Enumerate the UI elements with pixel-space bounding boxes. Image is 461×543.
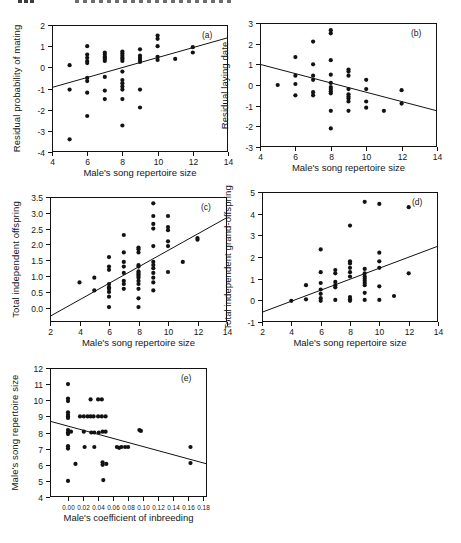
svg-text:-3: -3 — [37, 127, 45, 137]
svg-text:0: 0 — [40, 63, 45, 73]
svg-text:-1: -1 — [247, 318, 255, 328]
svg-text:8: 8 — [348, 327, 353, 337]
svg-text:0.5: 0.5 — [31, 288, 43, 298]
panel-b: Residual laying date 4681012143210-1-2-3… — [0, 0, 461, 543]
svg-text:10: 10 — [362, 152, 372, 162]
svg-text:14: 14 — [433, 152, 443, 162]
svg-text:14: 14 — [224, 157, 234, 167]
svg-text:6: 6 — [38, 461, 43, 471]
svg-text:5: 5 — [38, 477, 43, 487]
svg-text:10: 10 — [375, 327, 385, 337]
svg-text:0.10: 0.10 — [137, 504, 150, 511]
panel-letter-e: (e) — [181, 373, 191, 383]
panel-c: Total independent offspring 24681012143.… — [0, 0, 461, 543]
svg-text:0.08: 0.08 — [122, 504, 135, 511]
svg-text:0: 0 — [248, 81, 253, 91]
svg-text:1: 1 — [250, 275, 255, 285]
svg-text:12: 12 — [189, 157, 199, 167]
svg-text:4: 4 — [78, 327, 83, 337]
x-axis-label-d: Male's song repertoire size — [262, 337, 438, 348]
svg-text:3.5: 3.5 — [31, 193, 43, 203]
svg-text:2.0: 2.0 — [31, 240, 43, 250]
y-axis-label-wrap-b: Residual laying date — [214, 23, 236, 147]
y-axis-label-b: Residual laying date — [220, 41, 231, 129]
svg-text:6: 6 — [85, 157, 90, 167]
scatter-plot-d: 2468101214543210-1 — [262, 192, 438, 322]
svg-text:8: 8 — [120, 157, 125, 167]
svg-text:9: 9 — [38, 412, 43, 422]
svg-text:4: 4 — [50, 157, 55, 167]
panel-a: Residual probability of mating 468101214… — [0, 0, 461, 543]
panel-letter-a: (a) — [202, 30, 212, 40]
scatter-plot-a: 468101214210-1-2-3-4 — [52, 25, 228, 152]
y-axis-label-wrap-d: Total independent grand-offspring — [216, 192, 238, 322]
svg-text:2: 2 — [260, 327, 265, 337]
svg-text:0.0: 0.0 — [31, 304, 43, 314]
svg-text:2: 2 — [248, 40, 253, 50]
svg-text:1: 1 — [248, 60, 253, 70]
svg-text:-2: -2 — [245, 122, 253, 132]
svg-text:4: 4 — [258, 152, 263, 162]
panel-letter-c: (c) — [201, 202, 211, 212]
svg-text:-1: -1 — [245, 102, 253, 112]
svg-text:0: 0 — [250, 296, 255, 306]
panel-letter-b: (b) — [411, 28, 421, 38]
y-axis-label-wrap-e: Male's song repertoire size — [4, 368, 26, 497]
panel-letter-d: (d) — [412, 197, 422, 207]
svg-text:1: 1 — [40, 42, 45, 52]
svg-text:8: 8 — [137, 327, 142, 337]
y-axis-label-wrap-c: Total independent offspring — [4, 197, 26, 322]
svg-text:-3: -3 — [245, 143, 253, 153]
svg-text:3.0: 3.0 — [31, 209, 43, 219]
scatter-plot-e: 0.000.020.040.060.080.100.120.140.160.18… — [50, 368, 207, 497]
svg-text:-1: -1 — [37, 85, 45, 95]
svg-text:0.18: 0.18 — [197, 504, 210, 511]
svg-text:4: 4 — [289, 327, 294, 337]
svg-text:2: 2 — [48, 327, 53, 337]
svg-text:0.12: 0.12 — [152, 504, 165, 511]
cropped-running-head — [75, 0, 233, 3]
x-axis-label-a: Male's song repertoire size — [52, 167, 228, 178]
y-axis-label-a: Residual probability of mating — [12, 25, 23, 153]
svg-text:10: 10 — [34, 396, 44, 406]
svg-text:4: 4 — [38, 493, 43, 503]
svg-text:0.02: 0.02 — [77, 504, 90, 511]
svg-text:2: 2 — [250, 253, 255, 263]
panel-d: Total independent grand-offspring 246810… — [0, 0, 461, 543]
svg-text:0.06: 0.06 — [107, 504, 120, 511]
scatter-plot-b: 4681012143210-1-2-3 — [260, 23, 437, 147]
x-axis-label-e: Male's coefficient of inbreeding — [50, 512, 207, 523]
svg-text:4: 4 — [250, 210, 255, 220]
svg-text:3: 3 — [250, 231, 255, 241]
svg-text:8: 8 — [38, 429, 43, 439]
y-axis-label-d: Total independent grand-offspring — [222, 185, 233, 330]
svg-text:12: 12 — [405, 327, 415, 337]
svg-text:10: 10 — [164, 327, 174, 337]
svg-text:2: 2 — [40, 21, 45, 31]
svg-text:12: 12 — [398, 152, 408, 162]
svg-text:-4: -4 — [37, 148, 45, 158]
y-axis-label-c: Total independent offspring — [10, 201, 21, 318]
scatter-plot-c: 24681012143.53.02.52.01.51.00.50.0 — [50, 197, 227, 322]
svg-text:-2: -2 — [37, 106, 45, 116]
svg-text:0.16: 0.16 — [182, 504, 195, 511]
svg-text:2.5: 2.5 — [31, 225, 43, 235]
svg-text:11: 11 — [34, 380, 43, 390]
svg-text:10: 10 — [154, 157, 164, 167]
cropped-page-number — [18, 0, 36, 3]
svg-text:7: 7 — [38, 445, 43, 455]
y-axis-label-wrap-a: Residual probability of mating — [6, 25, 28, 152]
svg-text:8: 8 — [329, 152, 334, 162]
panel-e: Male's song repertoire size 0.000.020.04… — [0, 0, 461, 543]
svg-text:12: 12 — [194, 327, 204, 337]
svg-text:6: 6 — [319, 327, 324, 337]
svg-text:1.0: 1.0 — [31, 272, 43, 282]
svg-text:0.04: 0.04 — [92, 504, 105, 511]
svg-text:5: 5 — [250, 188, 255, 198]
svg-text:6: 6 — [293, 152, 298, 162]
x-axis-label-c: Male's song repertoire size — [50, 337, 227, 348]
svg-text:12: 12 — [34, 364, 44, 374]
svg-text:6: 6 — [107, 327, 112, 337]
x-axis-label-b: Male's song repertoire size — [260, 162, 437, 173]
svg-text:0.14: 0.14 — [167, 504, 180, 511]
